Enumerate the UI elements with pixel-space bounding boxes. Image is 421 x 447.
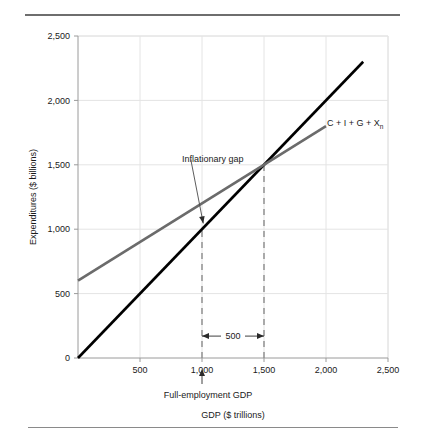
y-tick-label: 0 — [65, 353, 70, 363]
y-tick-labels: 05001,0001,5002,0002,500 — [47, 31, 78, 363]
x-tick-labels: 5001,0001,5002,0002,500 — [132, 358, 399, 375]
y-tick-label: 1,000 — [47, 224, 70, 234]
gap-measure-label: 500 — [225, 331, 240, 341]
full-employment-gdp-label: Full-employment GDP — [164, 390, 253, 400]
x-tick-label: 2,000 — [315, 365, 338, 375]
y-tick-label: 500 — [55, 289, 70, 299]
x-tick-label: 1,500 — [253, 365, 276, 375]
x-tick-label: 500 — [132, 365, 147, 375]
y-tick-label: 1,500 — [47, 160, 70, 170]
y-axis-title: Expenditures ($ billions) — [28, 149, 38, 245]
series-label-subscript: n — [380, 123, 384, 130]
x-tick-label: 2,500 — [377, 365, 400, 375]
figure-container: 05001,0001,5002,0002,500 5001,0001,5002,… — [0, 0, 421, 447]
x-axis-title: GDP ($ trillions) — [201, 410, 264, 420]
y-tick-label: 2,000 — [47, 96, 70, 106]
chart-svg: 05001,0001,5002,0002,500 5001,0001,5002,… — [0, 0, 421, 447]
y-tick-label: 2,500 — [47, 31, 70, 41]
